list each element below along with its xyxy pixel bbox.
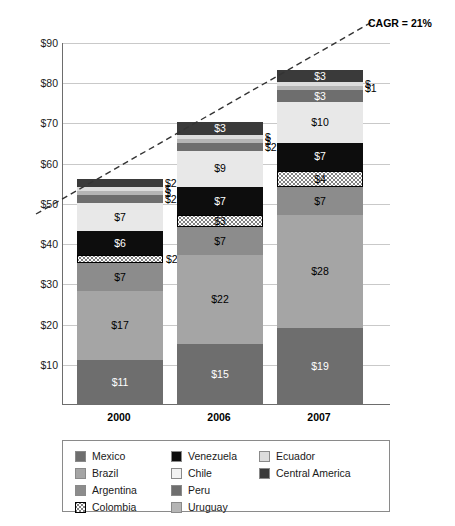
y-axis-tick-label: $20 xyxy=(12,319,58,331)
x-axis-tick-label: 2000 xyxy=(76,411,162,423)
legend-swatch-icon xyxy=(171,502,182,513)
bar-segment-outside-label: $2 xyxy=(165,178,177,189)
bar-segment-label: $17 xyxy=(111,320,129,331)
y-axis-tick-label: $60 xyxy=(12,158,58,170)
x-axis-tick-label: 2007 xyxy=(276,411,362,423)
bar-segment-uruguay: $ xyxy=(177,139,263,143)
legend-label: Venezuela xyxy=(188,450,237,462)
legend-label: Ecuador xyxy=(276,450,315,462)
bar-segment-colombia: $2 xyxy=(77,255,163,263)
legend-item[interactable]: Chile xyxy=(171,465,266,481)
legend-item[interactable]: Central America xyxy=(259,465,389,481)
bar-segment-argentina: $7 xyxy=(77,263,163,291)
bar-segment-chile: $7 xyxy=(77,203,163,231)
bar-segment-colombia: $4 xyxy=(277,171,363,187)
legend-label: Peru xyxy=(188,484,210,496)
stacked-bar-chart: $10$20$30$40$50$60$70$80$90 $11$17$7$2$6… xyxy=(0,0,455,526)
bar-segment-argentina: $7 xyxy=(277,187,363,215)
legend-label: Brazil xyxy=(92,467,118,479)
bar-segment-mexico: $11 xyxy=(77,360,163,404)
bar-segment-label: $15 xyxy=(211,369,229,380)
bar-group-2000: $11$17$7$2$6$7$2$$$2 xyxy=(77,42,163,404)
bar-segment-chile: $10 xyxy=(277,102,363,142)
bar-segment-label: $6 xyxy=(114,238,126,249)
y-axis-tick-label: $80 xyxy=(12,77,58,89)
legend-swatch-icon xyxy=(75,451,86,462)
bar-segment-label: $28 xyxy=(311,266,329,277)
chart-legend: MexicoBrazilArgentinaColombia VenezuelaC… xyxy=(62,440,390,512)
bar-segment-label: $3 xyxy=(314,71,326,82)
bar-segment-ecuador: $ xyxy=(177,135,263,139)
bar-segment-label: $22 xyxy=(211,294,229,305)
y-axis-tick-label: $40 xyxy=(12,238,58,250)
legend-column-2: VenezuelaChilePeruUruguay xyxy=(171,448,266,516)
legend-item[interactable]: Colombia xyxy=(75,499,170,515)
bar-segment-label: $4 xyxy=(314,174,326,185)
bar-segment-venezuela: $6 xyxy=(77,231,163,255)
bar-segment-label: $11 xyxy=(112,377,129,388)
legend-item[interactable]: Peru xyxy=(171,482,266,498)
bar-segment-brazil: $28 xyxy=(277,215,363,328)
bar-segment-label: $7 xyxy=(114,212,126,223)
legend-item[interactable]: Ecuador xyxy=(259,448,389,464)
legend-column-3: EcuadorCentral America xyxy=(259,448,389,482)
legend-column-1: MexicoBrazilArgentinaColombia xyxy=(75,448,170,516)
plot-area: $11$17$7$2$6$7$2$$$2$15$22$7$3$7$9$2$$$3… xyxy=(62,43,390,405)
bar-segment-venezuela: $7 xyxy=(177,187,263,215)
bar-segment-central-america: $3 xyxy=(177,122,263,134)
legend-item[interactable]: Uruguay xyxy=(171,499,266,515)
bar-segment-colombia: $3 xyxy=(177,215,263,227)
bar-segment-label: $7 xyxy=(314,151,326,162)
legend-label: Chile xyxy=(188,467,212,479)
legend-label: Argentina xyxy=(92,484,137,496)
y-axis-tick-label: $50 xyxy=(12,198,58,210)
bar-segment-peru: $3 xyxy=(277,90,363,102)
bar-segment-mexico: $19 xyxy=(277,328,363,404)
bar-segment-peru: $2 xyxy=(177,143,263,151)
bar-segment-venezuela: $7 xyxy=(277,143,363,171)
bar-segment-mexico: $15 xyxy=(177,344,263,404)
bar-segment-label: $19 xyxy=(311,361,329,372)
y-axis-tick-label: $10 xyxy=(12,359,58,371)
legend-swatch-icon xyxy=(171,485,182,496)
x-axis-tick-label: 2006 xyxy=(176,411,262,423)
y-axis-tick-label: $70 xyxy=(12,117,58,129)
legend-item[interactable]: Venezuela xyxy=(171,448,266,464)
legend-label: Colombia xyxy=(92,501,136,513)
legend-swatch-icon xyxy=(75,502,86,513)
bar-segment-outside-label: $ xyxy=(365,79,371,90)
y-axis-tick-label: $90 xyxy=(12,37,58,49)
y-axis-tick-label: $30 xyxy=(12,278,58,290)
bar-segment-uruguay: $1 xyxy=(277,86,363,90)
cagr-annotation-label: CAGR = 21% xyxy=(368,17,432,29)
bar-segment-argentina: $7 xyxy=(177,227,263,255)
bar-segment-label: $10 xyxy=(311,117,329,128)
legend-label: Mexico xyxy=(92,450,125,462)
legend-item[interactable]: Brazil xyxy=(75,465,170,481)
legend-swatch-icon xyxy=(171,468,182,479)
legend-swatch-icon xyxy=(75,468,86,479)
bar-segment-central-america: $2 xyxy=(77,179,163,187)
legend-item[interactable]: Argentina xyxy=(75,482,170,498)
bar-segment-label: $3 xyxy=(214,123,226,134)
legend-swatch-icon xyxy=(75,485,86,496)
bar-segment-label: $7 xyxy=(214,196,226,207)
bar-segment-label: $7 xyxy=(214,236,226,247)
bar-segment-label: $7 xyxy=(114,272,126,283)
legend-swatch-icon xyxy=(171,451,182,462)
bar-segment-ecuador: $ xyxy=(277,82,363,86)
bar-group-2006: $15$22$7$3$7$9$2$$$3 xyxy=(177,42,263,404)
bar-segment-ecuador: $ xyxy=(77,187,163,191)
bar-segment-brazil: $17 xyxy=(77,291,163,359)
bar-segment-outside-label: $2 xyxy=(166,254,178,265)
bar-segment-central-america: $3 xyxy=(277,70,363,82)
bar-segment-label: $3 xyxy=(214,216,226,227)
bar-segment-chile: $9 xyxy=(177,151,263,187)
legend-swatch-icon xyxy=(259,468,270,479)
bar-segment-brazil: $22 xyxy=(177,255,263,343)
bar-segment-uruguay: $ xyxy=(77,191,163,195)
bar-segment-peru: $2 xyxy=(77,195,163,203)
bar-segment-label: $9 xyxy=(214,163,226,174)
legend-item[interactable]: Mexico xyxy=(75,448,170,464)
bar-segment-outside-label: $ xyxy=(265,131,271,142)
